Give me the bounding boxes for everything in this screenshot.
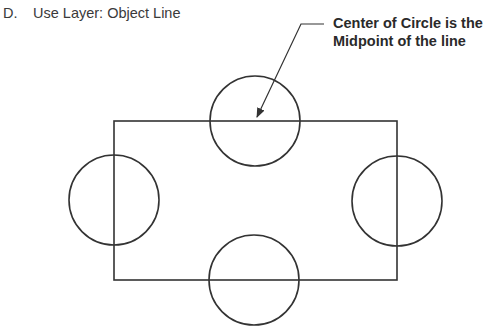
rectangle-shape bbox=[114, 121, 397, 280]
cad-drawing bbox=[0, 0, 499, 327]
leader-arrow bbox=[257, 24, 324, 117]
